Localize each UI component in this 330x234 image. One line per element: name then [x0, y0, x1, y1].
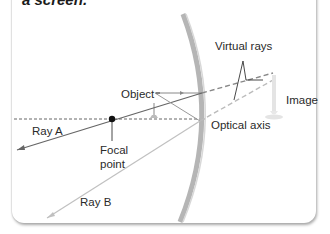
ray-b-arrowhead-icon	[47, 212, 55, 218]
virtual-ray-lower	[200, 80, 273, 121]
label-focal-point-1: Focal	[100, 144, 128, 156]
convex-mirror	[180, 14, 202, 222]
label-image: Image	[286, 94, 318, 106]
ray-a-arrowhead-icon	[17, 145, 25, 150]
focal-point-dot	[109, 116, 115, 122]
label-ray-a: Ray A	[32, 125, 63, 137]
label-virtual-rays: Virtual rays	[215, 40, 273, 52]
image-candle-holder-icon	[270, 111, 278, 115]
image-candle-icon	[272, 75, 276, 111]
object-candle-icon	[150, 115, 158, 118]
convex-mirror-diagram: Virtual rays Object Image Optical axis R…	[0, 0, 330, 234]
label-focal-point-2: point	[100, 158, 126, 170]
incident-ray-diagonal	[155, 93, 200, 121]
label-optical-axis: Optical axis	[211, 119, 271, 131]
label-object: Object	[121, 88, 155, 100]
arrowhead-icon	[180, 91, 184, 95]
label-ray-b: Ray B	[80, 196, 112, 208]
ray-a-line	[17, 93, 202, 150]
